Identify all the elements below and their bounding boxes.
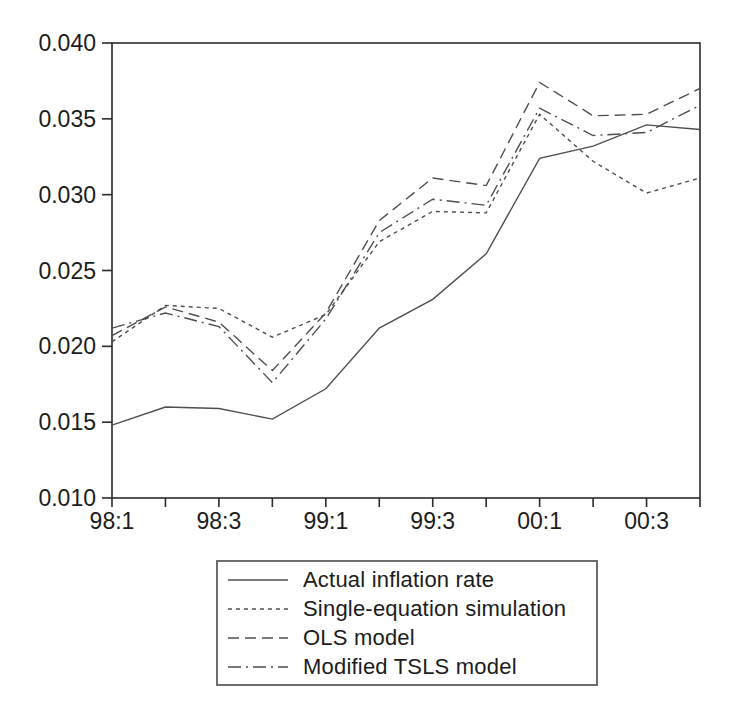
legend-line-swatch-icon bbox=[227, 632, 289, 644]
plot-border bbox=[112, 43, 700, 498]
legend-item-ols: OLS model bbox=[227, 623, 596, 652]
legend-item-actual: Actual inflation rate bbox=[227, 565, 596, 594]
x-axis-tick-label: 00:1 bbox=[517, 508, 562, 534]
legend-line-swatch-icon bbox=[227, 603, 289, 615]
series-line-3 bbox=[112, 105, 700, 383]
x-axis-tick-label: 98:1 bbox=[90, 508, 135, 534]
y-axis-tick-label: 0.010 bbox=[38, 485, 96, 511]
legend-label: Single-equation simulation bbox=[303, 596, 566, 622]
x-axis-tick-label: 99:3 bbox=[410, 508, 455, 534]
legend-item-tsls: Modified TSLS model bbox=[227, 652, 596, 681]
line-chart: 0.0100.0150.0200.0250.0300.0350.04098:19… bbox=[0, 0, 730, 545]
series-line-0 bbox=[112, 125, 700, 425]
y-axis-tick-label: 0.020 bbox=[38, 333, 96, 359]
x-axis-tick-label: 99:1 bbox=[303, 508, 348, 534]
y-axis-tick-label: 0.040 bbox=[38, 30, 96, 56]
series-line-2 bbox=[112, 82, 700, 370]
x-axis-tick-label: 00:3 bbox=[624, 508, 669, 534]
x-axis-tick-label: 98:3 bbox=[197, 508, 242, 534]
legend-label: Modified TSLS model bbox=[303, 654, 517, 680]
series-line-1 bbox=[112, 114, 700, 341]
y-axis-tick-label: 0.030 bbox=[38, 182, 96, 208]
inflation-simulation-figure: 0.0100.0150.0200.0250.0300.0350.04098:19… bbox=[0, 0, 730, 714]
legend-line-swatch-icon bbox=[227, 661, 289, 673]
legend-item-single-equation: Single-equation simulation bbox=[227, 594, 596, 623]
y-axis-tick-label: 0.025 bbox=[38, 258, 96, 284]
y-axis-tick-label: 0.015 bbox=[38, 409, 96, 435]
chart-legend: Actual inflation rate Single-equation si… bbox=[216, 560, 598, 686]
y-axis-tick-label: 0.035 bbox=[38, 106, 96, 132]
legend-label: OLS model bbox=[303, 625, 415, 651]
legend-line-swatch-icon bbox=[227, 574, 289, 586]
legend-label: Actual inflation rate bbox=[303, 567, 494, 593]
